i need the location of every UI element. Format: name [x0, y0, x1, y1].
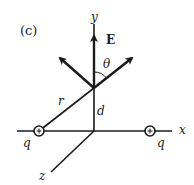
- charge-left-label: q: [23, 137, 31, 149]
- y-axis-label: y: [91, 11, 98, 23]
- r-label: r: [58, 95, 64, 107]
- theta-arc: [94, 72, 107, 78]
- panel-label: (c): [20, 24, 37, 37]
- field-component-left-arrow: [60, 58, 94, 88]
- theta-label: θ: [103, 58, 110, 70]
- r-line: [39, 88, 94, 131]
- field-label: E: [106, 34, 115, 46]
- z-axis-label: z: [39, 170, 45, 182]
- charge-right-label: q: [157, 137, 165, 149]
- charge-right: [145, 126, 155, 136]
- z-axis: [51, 131, 94, 172]
- d-label: d: [97, 105, 105, 117]
- charge-left: [34, 126, 44, 136]
- x-axis-label: x: [179, 124, 186, 136]
